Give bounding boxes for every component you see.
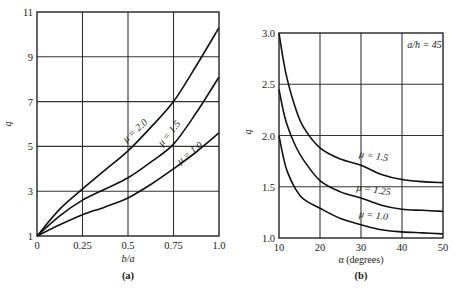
- x-tick-label: 10: [274, 242, 285, 253]
- caption-a: (a): [122, 270, 135, 282]
- caption-b: (b): [355, 270, 368, 282]
- chart-panel-a: 00.250.50.751.01357911 μ = 2.0μ = 1.5μ =…: [2, 7, 226, 282]
- y-tick-label: 5: [28, 141, 33, 152]
- x-tick-label: 0.25: [73, 240, 91, 251]
- y-tick-label: 2.0: [262, 131, 275, 142]
- x-tick-label: 0.75: [164, 240, 182, 251]
- y-axis-label-a: q: [2, 122, 13, 127]
- y-tick-label: 2.5: [262, 79, 275, 90]
- curve-label: μ = 1.5: [358, 148, 390, 163]
- x-axis-label-a: b/a: [122, 253, 135, 264]
- y-tick-label: 1.0: [262, 233, 275, 244]
- curve-labels-b: a/h = 45μ = 1.5μ = 1.25μ = 1.0: [355, 39, 442, 222]
- x-axis-label-b: α (degrees): [339, 254, 384, 266]
- y-tick-label: 1: [28, 231, 33, 242]
- curve-label: μ = 2.0: [119, 116, 149, 144]
- y-tick-label: 3: [28, 186, 33, 197]
- tick-labels-b: 10203040501.01.52.02.53.0: [262, 28, 448, 253]
- gridlines-a: [37, 12, 219, 236]
- x-tick-label: 20: [315, 242, 326, 253]
- annotation-label: a/h = 45: [407, 39, 442, 50]
- x-tick-label: 0: [34, 240, 39, 251]
- y-tick-label: 1.5: [262, 182, 275, 193]
- chart-panel-b: 10203040501.01.52.02.53.0 a/h = 45μ = 1.…: [242, 28, 448, 282]
- x-tick-label: 0.5: [121, 240, 134, 251]
- figure: 00.250.50.751.01357911 μ = 2.0μ = 1.5μ =…: [0, 0, 457, 293]
- y-axis-label-b: q: [242, 130, 253, 135]
- curve-labels-a: μ = 2.0μ = 1.5μ = 1.0: [119, 116, 204, 166]
- x-tick-label: 30: [356, 242, 367, 253]
- curve-label: μ = 1.5: [155, 118, 183, 148]
- y-tick-label: 11: [23, 7, 33, 18]
- curve-label: μ = 1.0: [358, 208, 389, 222]
- y-tick-label: 3.0: [262, 28, 275, 39]
- tick-labels-a: 00.250.50.751.01357911: [23, 7, 226, 251]
- curve-label: μ = 1.0: [174, 139, 205, 166]
- y-tick-label: 9: [28, 52, 33, 63]
- x-tick-label: 50: [438, 242, 449, 253]
- y-tick-label: 7: [28, 97, 33, 108]
- x-tick-label: 40: [397, 242, 408, 253]
- x-tick-label: 1.0: [212, 240, 225, 251]
